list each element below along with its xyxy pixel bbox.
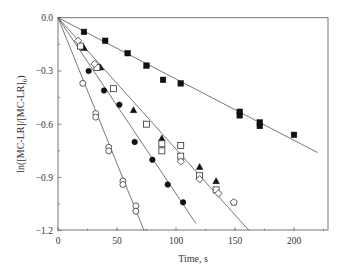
- square-filled-marker: [144, 63, 150, 69]
- x-tick-label: 100: [169, 236, 184, 246]
- y-tick-label: −0.9: [36, 173, 53, 183]
- circle-filled-marker: [86, 68, 92, 74]
- square-open-marker: [159, 148, 165, 154]
- circle-open-marker: [93, 114, 99, 120]
- open-circle-fit-line: [58, 18, 144, 231]
- circle-open-marker: [133, 208, 139, 214]
- circle-open-marker: [80, 80, 86, 86]
- square-filled-marker: [291, 132, 297, 138]
- y-tick-label: −1.2: [36, 226, 53, 236]
- kinetics-chart: 0.0−0.3−0.6−0.9−1.2 050100150200 Time, s…: [0, 0, 345, 273]
- fit-lines: [58, 18, 318, 231]
- circle-filled-marker: [180, 200, 186, 206]
- circle-filled-marker: [132, 139, 138, 145]
- square-filled-marker: [160, 77, 166, 83]
- triangle-filled-marker: [213, 178, 220, 184]
- circle-filled-marker: [117, 102, 123, 108]
- pentagon-open-marker: [230, 199, 237, 206]
- triangle-filled-marker: [130, 107, 137, 113]
- square-filled-marker: [257, 123, 263, 129]
- circle-filled-marker: [101, 88, 107, 94]
- x-axis-label: Time, s: [178, 253, 208, 264]
- square-open-marker: [178, 143, 184, 149]
- square-open-marker: [110, 86, 116, 92]
- circle-filled-marker: [165, 182, 171, 188]
- square-filled-marker: [81, 29, 87, 35]
- x-tick-label: 0: [56, 236, 61, 246]
- circle-open-marker: [106, 148, 112, 154]
- square-filled-marker: [125, 50, 131, 56]
- y-tick-label: −0.6: [36, 120, 53, 130]
- x-tick-label: 50: [112, 236, 122, 246]
- x-tick-label: 200: [287, 236, 302, 246]
- y-tick-label: 0.0: [41, 13, 53, 23]
- square-open-marker: [159, 141, 165, 147]
- circle-filled-marker: [150, 157, 156, 163]
- triangle-filled-marker: [196, 164, 203, 170]
- circle-open-marker: [120, 182, 126, 188]
- y-axis-label: ln([MC-LR]/[MC-LR]0): [15, 75, 29, 172]
- data-markers: [74, 29, 296, 214]
- y-tick-label: −0.3: [36, 66, 53, 76]
- square-filled-marker: [178, 81, 184, 87]
- plot-frame: [58, 18, 328, 230]
- filled-square-fit-line: [58, 18, 318, 153]
- square-open-marker: [144, 121, 150, 127]
- square-filled-marker: [102, 38, 108, 44]
- square-filled-marker: [237, 113, 243, 119]
- x-tick-label: 150: [228, 236, 243, 246]
